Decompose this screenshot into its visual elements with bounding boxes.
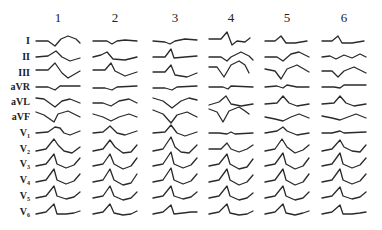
trace-v6-col6 bbox=[322, 205, 366, 214]
trace-v6-col5 bbox=[265, 204, 309, 215]
lead-label-avf: aVF bbox=[12, 111, 30, 122]
trace-ii-col4 bbox=[209, 52, 253, 61]
trace-i-col4 bbox=[209, 32, 250, 45]
column-label-4: 4 bbox=[228, 10, 235, 25]
trace-v2-col6 bbox=[322, 140, 366, 152]
trace-v5-col5 bbox=[265, 186, 309, 200]
trace-avf-col6 bbox=[322, 114, 366, 120]
trace-v3-col2 bbox=[93, 154, 137, 169]
trace-avf-col2 bbox=[93, 114, 137, 121]
trace-v4-col6 bbox=[322, 169, 366, 184]
trace-avr-col6 bbox=[322, 85, 366, 88]
lead-label-avr: aVR bbox=[11, 81, 31, 92]
ecg-figure: 123456 IIIIIIaVRaVLaVFV1V2V3V4V5V6 bbox=[0, 0, 382, 230]
trace-v3-col4 bbox=[209, 154, 253, 169]
trace-v3-col3 bbox=[153, 152, 197, 168]
trace-ii-col5 bbox=[265, 52, 309, 61]
trace-ii-col3 bbox=[153, 49, 197, 58]
ecg-traces bbox=[36, 32, 366, 215]
trace-iii-col1 bbox=[36, 63, 80, 78]
trace-avl-col3 bbox=[153, 98, 197, 108]
column-label-3: 3 bbox=[172, 10, 179, 25]
trace-iii-col2 bbox=[93, 63, 137, 76]
lead-label-iii: III bbox=[18, 67, 30, 78]
trace-v5-col3 bbox=[153, 186, 197, 199]
trace-v3-col1 bbox=[36, 154, 80, 168]
trace-i-col1 bbox=[36, 36, 80, 46]
lead-label-v3: V3 bbox=[20, 158, 30, 170]
trace-v1-col3 bbox=[153, 125, 197, 136]
column-label-1: 1 bbox=[55, 10, 62, 25]
column-label-2: 2 bbox=[112, 10, 119, 25]
trace-avf-col1 bbox=[36, 111, 80, 122]
trace-ii-col1 bbox=[36, 51, 80, 61]
trace-v2-col4 bbox=[209, 143, 253, 152]
trace-v6-col4 bbox=[209, 204, 253, 215]
lead-label-i: I bbox=[26, 35, 30, 46]
trace-avr-col4 bbox=[209, 86, 253, 89]
trace-avf-col5 bbox=[265, 114, 309, 121]
trace-avl-col4 bbox=[209, 96, 253, 106]
trace-ii-col6 bbox=[322, 54, 366, 59]
trace-v6-col3 bbox=[153, 205, 197, 214]
trace-v1-col1 bbox=[36, 127, 80, 135]
trace-iii-col3 bbox=[153, 65, 197, 77]
trace-iii-col6 bbox=[322, 67, 366, 77]
trace-avr-col2 bbox=[93, 86, 137, 90]
lead-label-ii: II bbox=[22, 51, 30, 62]
trace-v4-col5 bbox=[265, 169, 309, 185]
trace-v6-col2 bbox=[93, 204, 137, 215]
lead-label-avl: aVL bbox=[11, 96, 30, 107]
trace-v2-col3 bbox=[153, 137, 197, 153]
column-label-5: 5 bbox=[284, 10, 291, 25]
trace-v5-col1 bbox=[36, 186, 80, 199]
trace-v1-col6 bbox=[322, 131, 366, 133]
trace-v5-col4 bbox=[209, 186, 253, 200]
lead-label-v1: V1 bbox=[20, 127, 30, 139]
trace-ii-col2 bbox=[93, 52, 137, 60]
trace-v4-col2 bbox=[93, 169, 137, 185]
trace-avl-col1 bbox=[36, 98, 80, 107]
trace-avl-col2 bbox=[93, 99, 137, 106]
column-labels: 123456 bbox=[55, 10, 348, 25]
trace-iii-col5 bbox=[265, 65, 309, 79]
trace-v1-col4 bbox=[209, 132, 253, 134]
trace-v4-col3 bbox=[153, 168, 197, 184]
lead-label-v2: V2 bbox=[20, 143, 30, 155]
trace-avf-col3 bbox=[153, 110, 197, 123]
trace-avf-col4 bbox=[209, 107, 249, 122]
lead-label-v5: V5 bbox=[20, 190, 30, 202]
column-label-6: 6 bbox=[341, 10, 348, 25]
trace-i-col6 bbox=[322, 36, 364, 43]
trace-v6-col1 bbox=[36, 204, 80, 214]
trace-v4-col4 bbox=[209, 169, 253, 185]
trace-v5-col6 bbox=[322, 187, 366, 199]
trace-v5-col2 bbox=[93, 186, 137, 200]
trace-v3-col6 bbox=[322, 153, 366, 168]
trace-avl-col6 bbox=[322, 96, 366, 106]
lead-labels: IIIIIIaVRaVLaVFV1V2V3V4V5V6 bbox=[11, 35, 31, 218]
trace-v1-col5 bbox=[265, 127, 309, 135]
trace-v3-col5 bbox=[265, 153, 309, 169]
trace-i-col2 bbox=[93, 40, 137, 44]
trace-v2-col5 bbox=[265, 139, 309, 153]
trace-v4-col1 bbox=[36, 169, 80, 184]
trace-i-col5 bbox=[265, 36, 307, 43]
lead-label-v4: V4 bbox=[20, 174, 30, 186]
trace-v1-col2 bbox=[93, 126, 137, 135]
trace-avl-col5 bbox=[265, 96, 309, 106]
lead-label-v6: V6 bbox=[20, 206, 30, 218]
trace-avr-col5 bbox=[265, 85, 309, 88]
trace-v2-col2 bbox=[93, 140, 137, 153]
trace-avr-col1 bbox=[36, 86, 80, 90]
trace-avr-col3 bbox=[153, 86, 197, 90]
trace-v2-col1 bbox=[36, 139, 80, 153]
trace-i-col3 bbox=[153, 39, 197, 44]
trace-iii-col4 bbox=[209, 61, 249, 77]
